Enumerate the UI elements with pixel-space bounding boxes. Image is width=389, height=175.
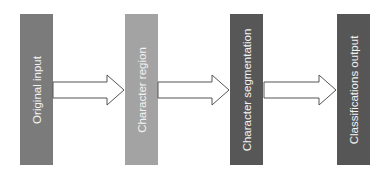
node-character-segmentation: Character segmentation [230,14,263,165]
arrow-right-icon [158,74,230,106]
arrow-right-icon [53,74,125,106]
node-original-input: Original input [20,14,53,165]
node-label: Character segmentation [241,28,253,151]
node-classifications-output: Classifications output [337,14,370,165]
arrow-right-icon [264,74,337,106]
node-character-region: Character region [125,14,158,165]
node-label: Classifications output [348,35,360,144]
node-label: Character region [136,47,148,133]
node-label: Original input [31,56,43,124]
